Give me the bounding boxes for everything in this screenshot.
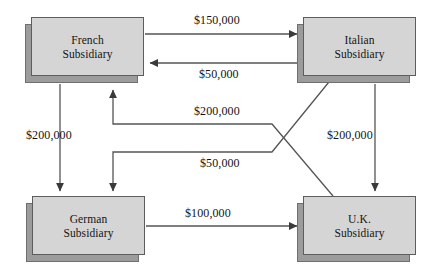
flow-label-french-to-italian: $150,000	[194, 13, 240, 28]
node-label-line2: Subsidiary	[62, 47, 112, 61]
node-face: Italian Subsidiary	[303, 17, 416, 76]
flow-label-italian-to-german: $50,000	[200, 156, 240, 171]
node-label-line1: French	[71, 33, 104, 47]
flow-label-french-to-german: $200,000	[26, 128, 72, 143]
node-face: French Subsidiary	[31, 17, 144, 76]
node-label-line1: German	[70, 212, 108, 226]
connector-italian-to-german	[113, 77, 333, 191]
flow-label-italian-to-french: $50,000	[199, 67, 239, 82]
node-label-line2: Subsidiary	[334, 47, 384, 61]
flow-label-italian-to-uk: $200,000	[327, 128, 373, 143]
diagram-canvas: French Subsidiary Italian Subsidiary Ger…	[0, 0, 442, 275]
node-label-line2: Subsidiary	[63, 226, 113, 240]
node-face: U.K. Subsidiary	[303, 196, 416, 255]
node-label-line2: Subsidiary	[334, 226, 384, 240]
flow-label-german-to-uk: $100,000	[185, 206, 231, 221]
node-label-line1: U.K.	[348, 212, 371, 226]
node-label-line1: Italian	[344, 33, 374, 47]
node-face: German Subsidiary	[32, 196, 145, 255]
flow-label-uk-to-french: $200,000	[194, 104, 240, 119]
